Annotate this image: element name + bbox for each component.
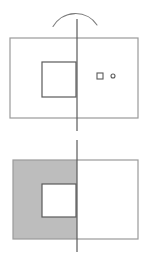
mental-rotation-diagram [0,0,148,261]
bottom-figure [13,140,138,252]
top-figure [10,14,138,131]
card-outline-top [10,38,138,118]
rotation-arc-icon [53,14,97,27]
shaded-left-half [13,160,77,239]
square-hole-outline [42,184,76,217]
diagram-canvas [0,0,148,261]
